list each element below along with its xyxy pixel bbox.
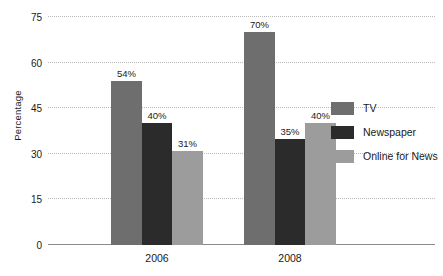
gridline: 15 bbox=[48, 198, 435, 199]
bar: 54% bbox=[111, 81, 142, 245]
bar: 70% bbox=[244, 32, 275, 245]
bar-group: 54%40%31%2006 bbox=[111, 17, 203, 245]
y-axis-tick-label: 30 bbox=[31, 148, 42, 159]
legend-color-swatch bbox=[331, 150, 354, 163]
bar-chart: Percentage 01530456075 54%40%31%200670%3… bbox=[0, 0, 443, 276]
y-axis-title: Percentage bbox=[12, 71, 23, 161]
legend: TVNewspaperOnline for News bbox=[331, 96, 438, 168]
y-axis-tick-label: 15 bbox=[31, 194, 42, 205]
bar: 35% bbox=[275, 139, 306, 245]
y-axis-tick-label: 60 bbox=[31, 57, 42, 68]
x-axis-category-label: 2006 bbox=[111, 252, 203, 264]
bar-value-label: 40% bbox=[311, 110, 330, 121]
legend-item: TV bbox=[331, 96, 438, 120]
gridline: 75 bbox=[48, 16, 435, 17]
legend-item-label: Online for News bbox=[363, 150, 438, 162]
x-axis-category-label: 2008 bbox=[244, 252, 336, 264]
bar-value-label: 40% bbox=[147, 110, 166, 121]
y-axis-tick-label: 75 bbox=[31, 12, 42, 23]
legend-color-swatch bbox=[331, 126, 354, 139]
legend-color-swatch bbox=[331, 102, 354, 115]
y-axis-tick-label: 45 bbox=[31, 103, 42, 114]
bar-group: 70%35%40%2008 bbox=[244, 17, 336, 245]
bar-value-label: 54% bbox=[117, 68, 136, 79]
axis-baseline: 0 bbox=[48, 244, 435, 245]
bar: 31% bbox=[172, 151, 203, 245]
y-axis-tick-label: 0 bbox=[36, 240, 42, 251]
bar: 40% bbox=[142, 123, 173, 245]
gridline: 60 bbox=[48, 62, 435, 63]
legend-item: Online for News bbox=[331, 144, 438, 168]
legend-item-label: Newspaper bbox=[363, 126, 416, 138]
legend-item-label: TV bbox=[363, 102, 376, 114]
bar-value-label: 70% bbox=[250, 19, 269, 30]
legend-item: Newspaper bbox=[331, 120, 438, 144]
bar-value-label: 35% bbox=[280, 126, 299, 137]
bar-value-label: 31% bbox=[178, 138, 197, 149]
